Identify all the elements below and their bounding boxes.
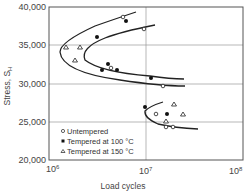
fit-curves [60, 12, 198, 129]
svg-text:Untempered: Untempered [67, 127, 108, 136]
x-axis-label: Load cycles [101, 181, 146, 191]
fatigue-chart: 40,000 35,000 30,000 25,000 20,000 106 1… [0, 0, 249, 194]
y-tick-30000: 30,000 [18, 79, 46, 89]
x-tick-1e7: 107 [139, 166, 153, 176]
series-tempered-100 [95, 19, 169, 116]
legend-item-tempered-150: Tempered at 150 °C [61, 147, 134, 156]
x-tick-1e6: 106 [46, 164, 60, 174]
legend-item-untempered: Untempered [61, 127, 108, 136]
x-axis-ticks: 106 107 108 [46, 164, 243, 176]
triangle-icon [61, 150, 65, 153]
open-circle-icon [61, 129, 64, 132]
y-tick-40000: 40,000 [18, 2, 46, 12]
y-axis-label: Stress, SH [2, 67, 13, 106]
x-tick-1e8: 108 [229, 166, 243, 176]
legend-item-tempered-100: Tempered at 100 °C [62, 137, 135, 146]
y-tick-35000: 35,000 [18, 40, 46, 50]
y-axis-ticks: 40,000 35,000 30,000 25,000 20,000 [18, 2, 46, 165]
filled-marker-icon [62, 140, 65, 143]
legend: Untempered Tempered at 100 °C Tempered a… [61, 127, 134, 156]
y-tick-25000: 25,000 [18, 117, 46, 127]
y-tick-20000: 20,000 [18, 155, 46, 165]
inner-curve [84, 25, 184, 79]
svg-text:Tempered at 100 °C: Tempered at 100 °C [67, 137, 134, 146]
svg-text:Tempered at 150 °C: Tempered at 150 °C [67, 147, 134, 156]
